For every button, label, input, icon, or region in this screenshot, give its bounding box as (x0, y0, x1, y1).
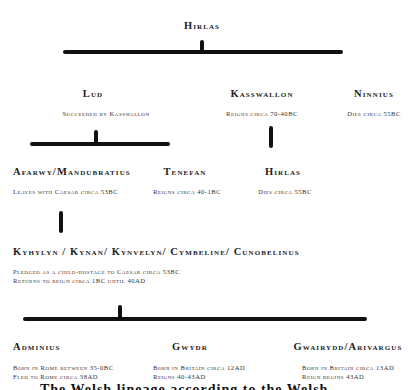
person-cunobelinus: Kyhylyn / Kynan/ Kynvelyn/ Cymbeline/ Cu… (13, 246, 300, 257)
person-gwydr: Gwydr (172, 341, 208, 352)
note-afarwy: Leaves with Caesar circa 53BC (13, 187, 118, 196)
person-tenefan: Tenefan (164, 166, 207, 177)
note-gwairydd-2: Reign begins 43AD (302, 372, 364, 381)
note-kasswallon: Reigns circa 70-40BC (226, 109, 298, 118)
note-ninnius: Dies circa 55BC (347, 109, 401, 118)
note-tenefan: Reigns circa 40-1BC (153, 187, 221, 196)
note-gwydr-2: Reigns 40-43AD (153, 372, 206, 381)
note-lud: Succeeded by Kasswallon (62, 109, 149, 118)
person-ninnius: Ninnius (354, 88, 394, 99)
person-kasswallon: Kasswallon (230, 88, 293, 99)
lud-children-bar (30, 142, 170, 146)
note-gwairydd-1: Born in Britain circa 13AD (302, 363, 394, 372)
person-hirlas-2: Hirlas (265, 166, 301, 177)
person-gwairydd-arivargus: Gwairydd/Arivargus (294, 341, 403, 352)
afarwy-stem-line (59, 211, 63, 233)
note-hirlas-2: Dies circa 55BC (258, 187, 312, 196)
person-lud: Lud (83, 88, 103, 99)
cunobelinus-children-bar (23, 317, 367, 321)
root-name-hirlas: Hirlas (184, 20, 220, 31)
person-afarwy-mandubratius: Afarwy/Mandubratius (13, 166, 131, 177)
note-cunobelinus-1: Pledged as a child-hostage to Caesar cir… (13, 267, 180, 276)
kasswallon-stem-line (269, 126, 273, 148)
caption-truncated: The Welsh lineage according to the Welsh (40, 381, 328, 390)
note-adminius-1: Born in Rome between 35-0BC (13, 363, 114, 372)
note-gwydr-1: Born in Britain circa 12AD (153, 363, 245, 372)
root-sibling-bar (63, 50, 343, 54)
note-cunobelinus-2: Returns to reign circa 1BC until 40AD (13, 276, 146, 285)
person-adminius: Adminius (13, 341, 61, 352)
note-adminius-2: Fled to Rome circa 38AD (13, 372, 98, 381)
